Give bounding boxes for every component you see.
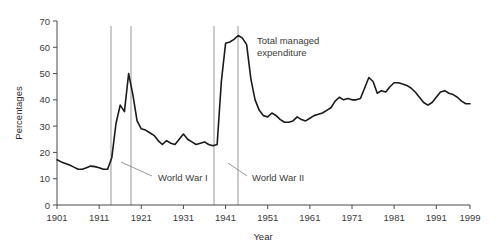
x-axis-tick-label: 1971: [341, 212, 362, 223]
annotation-world-war-1: World War I: [158, 172, 208, 183]
y-axis-tick-label: 0: [45, 200, 50, 211]
x-axis-tick-label: 1991: [426, 212, 447, 223]
x-axis-tick-label: 1901: [46, 212, 67, 223]
x-axis-tick-label: 1961: [299, 212, 320, 223]
x-axis-tick-label: 1921: [131, 212, 152, 223]
series-label-line2: expenditure: [257, 47, 307, 58]
y-axis-tick-label: 30: [39, 121, 50, 132]
x-axis-tick-label: 1931: [173, 212, 194, 223]
x-axis-tick-label: 1911: [89, 212, 109, 223]
y-axis-tick-label: 70: [39, 16, 50, 27]
y-axis-title: Percentages: [13, 86, 24, 140]
annotation-world-war-2: World War II: [252, 172, 304, 183]
y-axis-tick-label: 50: [39, 68, 50, 79]
chart-background: [0, 0, 502, 248]
x-axis-title: Year: [253, 231, 272, 242]
line-chart: 010203040506070 190119111921193119411951…: [0, 0, 502, 248]
y-axis-tick-label: 10: [39, 173, 50, 184]
x-axis-tick-label: 1981: [384, 212, 405, 223]
y-axis-tick-label: 60: [39, 42, 50, 53]
chart-container: 010203040506070 190119111921193119411951…: [0, 0, 502, 248]
y-axis-tick-label: 40: [39, 94, 50, 105]
y-axis-tick-label: 20: [39, 147, 50, 158]
x-axis-tick-label: 1941: [215, 212, 236, 223]
x-axis-tick-label: 1951: [257, 212, 278, 223]
x-axis-tick-label: 1999: [459, 212, 480, 223]
series-label-line1: Total managed: [257, 35, 319, 46]
